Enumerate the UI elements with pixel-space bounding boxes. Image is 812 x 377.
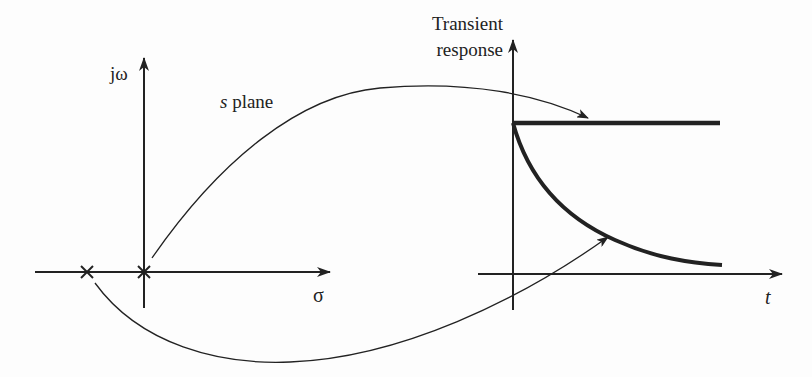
response-axis-label-line1: Transient (408, 14, 503, 33)
response-axes (478, 40, 782, 310)
response-axis-label-line2: response (408, 40, 503, 59)
mapping-arrow-lower (95, 237, 608, 362)
diagram-svg (0, 0, 812, 377)
s-plane-label: s plane (220, 92, 273, 111)
s-plane-axes (35, 58, 330, 308)
time-axis-label: t (765, 287, 771, 307)
mapping-arrow-upper (152, 86, 588, 258)
figure-canvas: jω s plane σ Transient response t (0, 0, 812, 377)
s-plane-label-rest: plane (227, 91, 273, 112)
sigma-axis-label: σ (313, 285, 324, 305)
jw-axis-label: jω (110, 64, 128, 83)
exponential-decay-curve (513, 123, 722, 265)
